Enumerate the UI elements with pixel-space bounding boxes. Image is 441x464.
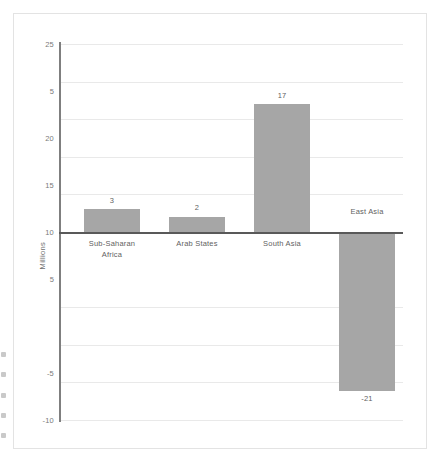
tick-label: 5 — [50, 87, 54, 96]
bar-south-asia[interactable] — [254, 104, 310, 232]
gridline — [60, 119, 403, 120]
tick-label: 10 — [45, 228, 54, 237]
category-label-south-asia: South Asia — [236, 239, 328, 250]
bar-value-label: 3 — [84, 196, 140, 205]
tick-label: 20 — [45, 134, 54, 143]
tick-label: 15 — [45, 181, 54, 190]
tick-label: 5 — [50, 275, 54, 284]
zero-axis-line — [59, 232, 403, 234]
bar-value-label: 17 — [254, 91, 310, 100]
edge-mark — [1, 372, 6, 377]
tick-label: -10 — [43, 416, 54, 425]
bar-sub-saharan-africa[interactable] — [84, 209, 140, 232]
page-edge-artifact — [1, 352, 6, 438]
value-axis-tick-labels: 25 5 20 15 10 5 -5 -10 -15 -20 -25 — [14, 44, 54, 420]
edge-mark — [1, 413, 6, 418]
gridline — [60, 420, 403, 421]
edge-mark — [1, 352, 6, 357]
category-label-arab-states: Arab States — [151, 239, 243, 250]
bar-east-asia[interactable] — [339, 234, 395, 392]
category-label-east-asia: East Asia — [321, 207, 413, 218]
bar-value-label: 2 — [169, 203, 225, 212]
plot-area: 3 Sub-Saharan Africa 2 Arab States 17 So… — [60, 44, 403, 420]
tick-label: -5 — [47, 369, 54, 378]
category-label-sub-saharan-africa: Sub-Saharan Africa — [66, 239, 158, 260]
gridline — [60, 157, 403, 158]
edge-mark — [1, 433, 6, 438]
gridline — [60, 44, 403, 45]
edge-mark — [1, 393, 6, 398]
bar-value-label: -21 — [339, 394, 395, 403]
gridline — [60, 82, 403, 83]
chart-figure-panel: Millions 25 5 20 15 10 5 -5 -10 -15 -20 … — [13, 13, 427, 449]
tick-label: 25 — [45, 40, 54, 49]
bar-arab-states[interactable] — [169, 217, 225, 232]
